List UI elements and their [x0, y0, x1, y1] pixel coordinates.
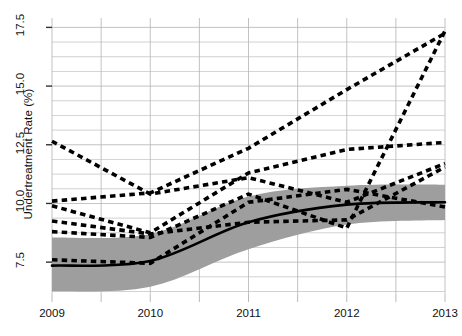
x-tick-label: 2011 — [225, 307, 273, 319]
y-tick-label: 10.0 — [14, 181, 26, 221]
x-tick-label: 2009 — [28, 307, 76, 319]
x-tick-label: 2012 — [323, 307, 371, 319]
x-tick-label: 2013 — [421, 307, 462, 319]
y-tick-label: 17.5 — [14, 5, 26, 45]
y-tick-label: 15.0 — [14, 64, 26, 104]
y-tick-label: 12.5 — [14, 123, 26, 163]
y-tick-label: 7.5 — [14, 240, 26, 280]
x-tick-label: 2010 — [126, 307, 174, 319]
